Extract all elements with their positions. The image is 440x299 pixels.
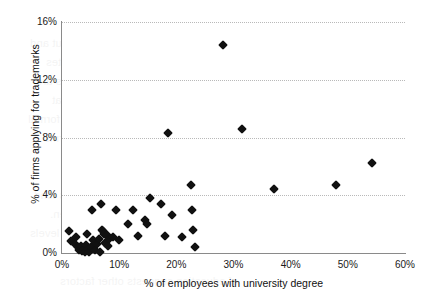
data-point: [237, 124, 247, 134]
data-point: [160, 231, 170, 241]
data-point: [269, 185, 279, 195]
data-point: [218, 40, 228, 50]
data-point: [87, 205, 97, 215]
x-tick-label: 0%: [42, 259, 82, 270]
data-point: [114, 235, 124, 245]
y-tick-label: 0%: [0, 248, 57, 258]
x-tick-label: 60%: [385, 259, 425, 270]
data-point: [186, 180, 196, 190]
data-point: [156, 199, 166, 209]
data-point: [367, 159, 377, 169]
data-point: [129, 205, 139, 215]
gridline-y: [62, 138, 405, 139]
data-point: [123, 219, 133, 229]
scatter-chart-figure: the measure of innovation output and ana…: [0, 0, 440, 299]
gridline-y: [62, 22, 405, 23]
data-point: [331, 180, 341, 190]
x-axis-line: [61, 253, 406, 254]
x-tick-label: 30%: [214, 259, 254, 270]
data-point: [189, 225, 199, 235]
data-point: [167, 211, 177, 221]
data-point: [187, 205, 197, 215]
data-point: [133, 231, 143, 241]
plot-area: [62, 22, 405, 253]
gridline-y: [62, 80, 405, 81]
y-axis-label: % of firms applying for trademarks: [29, 4, 41, 244]
data-point: [190, 242, 200, 252]
x-axis-label: % of employees with university degree: [62, 277, 405, 289]
x-tick-label: 40%: [271, 259, 311, 270]
x-tick-label: 20%: [156, 259, 196, 270]
data-point: [96, 199, 106, 209]
data-point: [177, 232, 187, 242]
data-point: [111, 205, 121, 215]
x-tick-label: 50%: [328, 259, 368, 270]
gridline-y: [62, 195, 405, 196]
x-tick-label: 10%: [99, 259, 139, 270]
